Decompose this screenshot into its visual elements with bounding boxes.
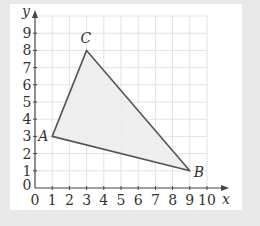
x-tick-label: 1	[48, 192, 57, 208]
x-tick-label: 7	[151, 192, 160, 208]
x-axis-label: x	[222, 191, 230, 207]
vertex-label-b: B	[193, 164, 204, 180]
y-tick-label: 9	[23, 25, 32, 41]
y-tick-label: 2	[23, 146, 32, 162]
y-tick-labels: 0123456789	[23, 25, 32, 193]
x-tick-label: 4	[99, 192, 108, 208]
y-axis-label: y	[21, 3, 31, 19]
y-tick-label: 1	[23, 163, 32, 179]
y-axis-arrow-icon	[32, 10, 38, 18]
vertex-label-a: A	[36, 128, 48, 144]
x-tick-label: 8	[168, 192, 177, 208]
x-tick-label: 2	[65, 192, 74, 208]
y-tick-label: 6	[23, 77, 32, 93]
y-tick-label: 7	[23, 60, 32, 76]
x-tick-label: 6	[134, 192, 143, 208]
x-tick-label: 0	[31, 192, 40, 208]
vertex-label-c: C	[81, 30, 92, 46]
coordinate-plot: 012345678910 0123456789 x y ABC	[0, 0, 260, 226]
y-tick-label: 5	[23, 94, 32, 110]
x-tick-label: 10	[198, 192, 216, 208]
x-tick-labels: 012345678910	[31, 192, 216, 208]
x-tick-label: 9	[185, 192, 194, 208]
x-tick-label: 5	[117, 192, 126, 208]
y-tick-label: 8	[23, 42, 32, 58]
y-tick-label: 0	[23, 177, 32, 193]
x-tick-label: 3	[82, 192, 91, 208]
y-tick-label: 4	[23, 111, 32, 127]
y-tick-label: 3	[23, 128, 32, 144]
